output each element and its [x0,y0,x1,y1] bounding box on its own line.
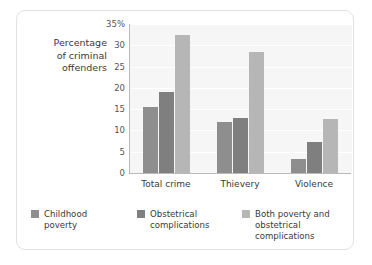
bar [143,107,158,173]
legend-label: Obstetricalcomplications [150,209,210,231]
legend-label-line-1: Obstetrical [150,209,210,220]
y-axis-tick-label: 30 [67,40,125,50]
x-axis-tick-label: Thievery [203,179,277,189]
y-axis-tick-label: 20 [67,83,125,93]
bar-chart: Percentage of criminal offenders 35%3025… [17,11,355,201]
legend-swatch-icon [137,210,145,218]
bar-group [129,24,203,173]
legend-label: Childhoodpoverty [44,209,87,231]
bar [291,159,306,173]
bar [323,119,338,173]
legend-label: Both poverty andobstetrical complication… [255,209,355,242]
legend-item: Both poverty andobstetrical complication… [242,209,355,242]
x-axis-line [129,173,351,174]
legend-swatch-icon [31,210,39,218]
chart-card: Percentage of criminal offenders 35%3025… [16,10,354,250]
y-axis-tick-label: 15 [67,104,125,114]
y-axis-tick-label: 10 [67,125,125,135]
y-axis-tick-label: 5 [67,147,125,157]
y-axis-ticks: 35%302520151050 [63,24,125,173]
legend-swatch-icon [242,210,250,218]
bar [175,35,190,173]
legend-item: Childhoodpoverty [31,209,87,231]
bar [217,122,232,173]
y-axis-tick-label: 35% [67,19,125,29]
x-axis-tick-label: Violence [277,179,351,189]
legend-item: Obstetricalcomplications [137,209,210,231]
legend-label-line-1: Childhood [44,209,87,220]
legend-label-line-2: complications [150,220,210,231]
legend-label-line-1: Both poverty and [255,209,355,220]
bar [233,118,248,173]
bar [249,52,264,173]
bar [159,92,174,173]
legend-label-line-2: poverty [44,220,87,231]
bar-group [203,24,277,173]
bar-group [277,24,351,173]
chart-legend: ChildhoodpovertyObstetricalcomplications… [17,203,355,249]
x-axis-tick-label: Total crime [129,179,203,189]
legend-label-line-2: obstetrical complications [255,220,355,242]
y-axis-tick-label: 0 [67,168,125,178]
bar [307,142,322,173]
y-axis-tick-label: 25 [67,62,125,72]
